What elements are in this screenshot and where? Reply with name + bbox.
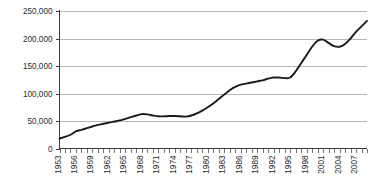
x-axis-tick-label: 1956 [70,155,79,174]
x-axis-tick-label: 1977 [185,155,194,174]
x-axis-tick-label: 1980 [202,155,211,174]
y-axis-tick-label: 100,000 [23,90,53,99]
x-axis-tick-label: 1998 [301,155,310,174]
x-axis-tick-label: 1989 [251,155,260,174]
y-axis-ticks-group [56,12,60,150]
gridlines-group [60,12,368,122]
line-chart: 050,000100,000150,000200,000250,000 1953… [0,0,376,188]
x-axis-tick-label: 2004 [334,155,343,174]
x-axis-tick-label: 1965 [119,155,128,174]
y-axis-tick-label: 250,000 [23,7,53,16]
x-axis-tick-label: 1968 [136,155,145,174]
x-axis-tick-label: 2007 [350,155,359,174]
x-axis-tick-label: 1983 [218,155,227,174]
x-axis-tick-label: 1974 [169,155,178,174]
x-axis-tick-label: 1986 [235,155,244,174]
y-axis-tick-label: 200,000 [23,35,53,44]
x-axis-tick-label: 1953 [54,155,63,174]
x-axis-tick-label: 1992 [268,155,277,174]
y-axis-tick-label: 50,000 [27,117,52,126]
chart-canvas: 050,000100,000150,000200,000250,000 1953… [0,0,376,188]
x-axis-tick-label: 1995 [284,155,293,174]
data-series-line [60,21,368,139]
x-axis-tick-label: 1959 [86,155,95,174]
x-axis-tick-labels: 1953195619591962196519681971197419771980… [54,155,359,174]
x-axis-ticks-group [61,149,368,153]
x-axis-tick-label: 1962 [103,155,112,174]
y-axis-tick-labels: 050,000100,000150,000200,000250,000 [23,7,53,154]
x-axis-tick-label: 1971 [152,155,161,174]
y-axis-tick-label: 150,000 [23,62,53,71]
x-axis-tick-label: 2001 [317,155,326,174]
y-axis-tick-label: 0 [48,145,53,154]
